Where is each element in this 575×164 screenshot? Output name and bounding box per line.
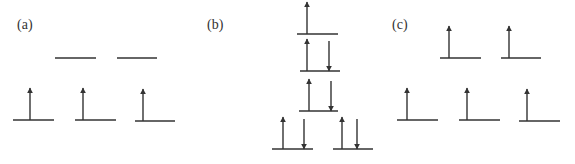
energy-level: [333, 117, 373, 149]
energy-level: [459, 88, 500, 120]
energy-level: [299, 79, 338, 111]
energy-level: [13, 88, 54, 120]
energy-level: [300, 39, 340, 71]
energy-level: [272, 117, 313, 149]
panel-c-label: (c): [392, 17, 408, 33]
energy-level: [519, 89, 560, 121]
energy-level: [501, 26, 541, 58]
panel-a-label: (a): [17, 17, 33, 33]
electron-configuration-diagram: (a) (b) (c): [0, 0, 575, 164]
energy-level: [397, 88, 438, 120]
panel-c: (c): [392, 17, 560, 121]
panel-b-label: (b): [207, 17, 224, 33]
panel-b: (b): [207, 2, 373, 149]
energy-level: [135, 89, 175, 121]
energy-level: [75, 88, 116, 120]
energy-level: [297, 2, 338, 34]
energy-level: [440, 26, 481, 58]
panel-a: (a): [13, 17, 175, 121]
